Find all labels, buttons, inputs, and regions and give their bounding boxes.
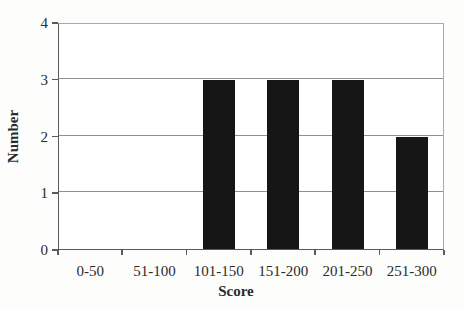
x-tick-mark-5 — [379, 250, 381, 255]
y-tick-label-3: 3 — [8, 71, 48, 89]
gridline-y2 — [59, 135, 443, 136]
x-tick-label-151-200: 151-200 — [250, 262, 316, 280]
x-tick-label-0-50: 0-50 — [57, 262, 123, 280]
bar-201-250 — [332, 80, 364, 249]
y-tick-label-2: 2 — [8, 128, 48, 146]
x-tick-mark-6 — [443, 250, 445, 255]
y-tick-mark-1 — [52, 192, 58, 194]
bar-chart: Number 01234 0-5051-100101-150151-200201… — [0, 0, 463, 309]
x-tick-mark-2 — [186, 250, 188, 255]
x-tick-mark-1 — [121, 250, 123, 255]
y-tick-mark-3 — [52, 79, 58, 81]
gridline-y3 — [59, 78, 443, 79]
gridline-y1 — [59, 191, 443, 192]
y-tick-label-4: 4 — [8, 14, 48, 32]
x-tick-mark-0 — [57, 250, 59, 255]
x-axis-title: Score — [176, 283, 296, 300]
plot-area — [58, 23, 444, 250]
y-tick-mark-2 — [52, 136, 58, 138]
x-tick-label-51-100: 51-100 — [122, 262, 188, 280]
x-tick-label-251-300: 251-300 — [379, 262, 445, 280]
bar-151-200 — [267, 80, 299, 249]
x-tick-label-201-250: 201-250 — [315, 262, 381, 280]
y-tick-label-1: 1 — [8, 184, 48, 202]
bar-101-150 — [203, 80, 235, 249]
x-tick-label-101-150: 101-150 — [186, 262, 252, 280]
y-tick-mark-4 — [52, 22, 58, 24]
bar-251-300 — [396, 137, 428, 250]
x-tick-mark-3 — [250, 250, 252, 255]
x-tick-mark-4 — [314, 250, 316, 255]
y-tick-label-0: 0 — [8, 241, 48, 259]
